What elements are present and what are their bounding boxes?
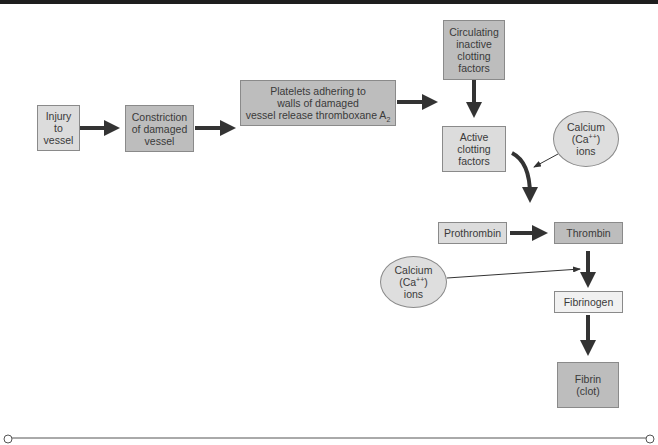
node-label-line: ions (576, 145, 595, 157)
node-constriction: Constriction of damaged vessel (125, 105, 194, 152)
node-label-line: (Ca++) (399, 276, 428, 288)
node-circulating-inactive-clotting-factors: Circulating inactive clotting factors (443, 20, 505, 80)
node-label-line: Circulating (449, 26, 499, 38)
node-label-line: vessel (44, 134, 74, 146)
node-calcium-ions-bottom: Calcium (Ca++) ions (380, 256, 447, 308)
node-calcium-ions-top: Calcium (Ca++) ions (553, 111, 619, 167)
arrow-calcium-bottom-to-thrombin-line (447, 269, 580, 278)
node-label-line: Calcium (395, 264, 433, 276)
node-label-line: inactive (456, 38, 492, 50)
node-fibrin-clot: Fibrin (clot) (557, 362, 619, 408)
node-label-line: Injury (46, 110, 72, 122)
node-label-line: Fibrin (575, 373, 601, 385)
node-label: Prothrombin (444, 227, 501, 239)
bottom-rule-right-end (646, 435, 654, 443)
node-label-line: Platelets adhering to (270, 85, 366, 97)
node-label-line: (Ca++) (572, 133, 601, 145)
node-label-line: (clot) (576, 385, 599, 397)
node-label: Thrombin (566, 227, 610, 239)
node-label-line: factors (458, 155, 490, 167)
arrow-calcium-to-curve (534, 154, 558, 167)
node-prothrombin: Prothrombin (438, 222, 507, 244)
node-label-line: of damaged (132, 123, 187, 135)
bottom-rule-left-end (4, 435, 12, 443)
node-label-line: Calcium (567, 121, 605, 133)
arrow-active-curve-down (512, 153, 530, 195)
node-active-clotting-factors: Active clotting factors (442, 126, 506, 172)
node-fibrinogen: Fibrinogen (554, 291, 623, 313)
node-label-line: to (54, 122, 63, 134)
node-label: Fibrinogen (564, 296, 614, 308)
node-label-line: clotting (457, 50, 490, 62)
node-label-line: Constriction (132, 111, 187, 123)
node-label-line: ions (404, 288, 423, 300)
node-label-line: Active (460, 131, 489, 143)
node-platelets-adhering: Platelets adhering to walls of damaged v… (240, 80, 396, 126)
node-label-line: walls of damaged (277, 97, 359, 109)
node-thrombin: Thrombin (554, 222, 623, 244)
node-label-line: factors (458, 62, 490, 74)
node-injury-to-vessel: Injury to vessel (37, 105, 80, 151)
node-label-line: clotting (457, 143, 490, 155)
node-label-line: vessel release thromboxane A2 (246, 109, 391, 121)
node-label-line: vessel (145, 135, 175, 147)
